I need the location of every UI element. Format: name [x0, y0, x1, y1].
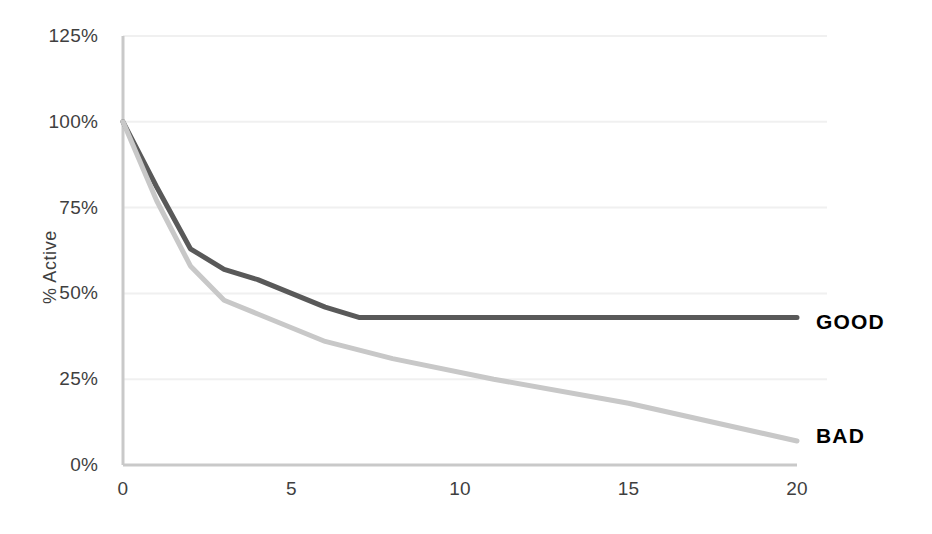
- gridlines: [123, 36, 827, 379]
- x-tick-15: 15: [618, 478, 640, 500]
- x-tick-5: 5: [286, 478, 297, 500]
- series-paths: [123, 122, 797, 441]
- series-label-bad: BAD: [816, 424, 865, 448]
- y-tick-125%: 125%: [0, 25, 108, 47]
- y-tick-0%: 0%: [0, 454, 108, 476]
- retention-chart: 0%25%50%75%100%125% 05101520 % Active GO…: [0, 0, 932, 534]
- plot-area: [0, 0, 932, 534]
- series-label-good: GOOD: [816, 310, 885, 334]
- x-tick-20: 20: [786, 478, 808, 500]
- axis-lines: [123, 36, 797, 465]
- x-tick-10: 10: [449, 478, 471, 500]
- series-line-bad: [123, 122, 797, 441]
- y-tick-75%: 75%: [0, 197, 108, 219]
- y-tick-100%: 100%: [0, 111, 108, 133]
- y-tick-25%: 25%: [0, 368, 108, 390]
- series-line-good: [123, 122, 797, 318]
- y-axis-title: % Active: [40, 230, 61, 304]
- x-tick-0: 0: [118, 478, 129, 500]
